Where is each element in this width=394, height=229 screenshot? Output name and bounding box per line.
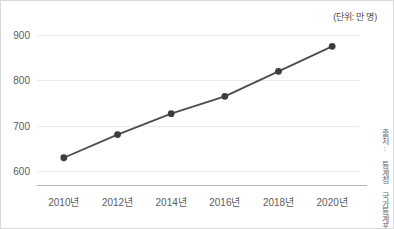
x-axis-tick-label: 2018년: [263, 194, 294, 209]
x-axis-tick-label: 2016년: [209, 194, 240, 209]
unit-note-label: (단위: 만 명): [333, 10, 377, 23]
y-axis-tick-label: 800: [13, 75, 30, 86]
x-axis-tick-label: 2020년: [317, 194, 348, 209]
series-line-group: [37, 35, 359, 185]
series-line: [64, 46, 332, 157]
y-axis-tick-label: 900: [13, 30, 30, 41]
x-axis-tick-label: 2010년: [48, 194, 79, 209]
x-axis-line: [37, 185, 367, 186]
plot-area: 600700800900: [37, 35, 359, 185]
source-note-label: 출처: 통계청 국가통계포털: [380, 129, 388, 229]
data-point-marker: [60, 154, 67, 161]
data-point-marker: [329, 43, 336, 50]
y-axis-tick-label: 700: [13, 120, 30, 131]
y-axis-tick-label: 600: [13, 166, 30, 177]
x-axis-tick-label: 2014년: [156, 194, 187, 209]
x-axis-tick-label: 2012년: [102, 194, 133, 209]
data-point-marker: [275, 68, 282, 75]
data-point-marker: [114, 131, 121, 138]
data-point-marker: [168, 110, 175, 117]
line-chart-figure: (단위: 만 명) 600700800900 2010년2012년2014년20…: [0, 0, 394, 229]
data-point-marker: [221, 93, 228, 100]
x-axis-labels-group: 2010년2012년2014년2016년2018년2020년: [37, 191, 359, 211]
